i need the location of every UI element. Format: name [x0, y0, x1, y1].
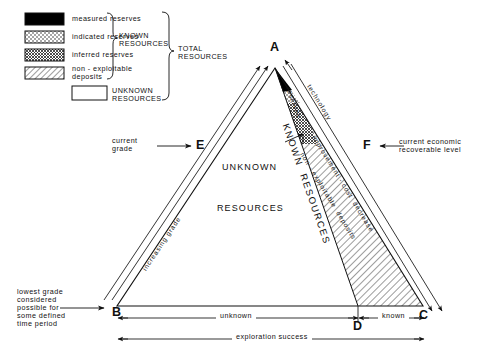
span-label-known: known: [378, 312, 409, 320]
interior-label-resources: RESOURCES: [217, 203, 284, 213]
legend-swatch-nonexploitable: [25, 67, 64, 79]
vertex-label-E: E: [196, 138, 204, 152]
legend-label-total-bracket: TOTAL RESOURCES: [178, 45, 228, 61]
legend-label-known-bracket: KNOWN RESOURCES: [119, 32, 169, 48]
legend-swatch-indicated: [25, 31, 64, 43]
annotation-current-economic-level: current economic recoverable level: [399, 138, 461, 154]
vertex-label-F: F: [363, 138, 371, 152]
span-label-exploration-success: exploration success: [232, 333, 312, 341]
bracket-total-resources: [162, 12, 174, 100]
legend-label-measured: measured reserves: [72, 15, 141, 23]
figure-canvas: measured reserves indicated reserves inf…: [0, 0, 480, 353]
vertex-label-B: B: [112, 305, 121, 319]
triangle-body: [117, 68, 423, 306]
vertex-label-C: C: [419, 308, 428, 322]
legend-swatch-unknown: [72, 86, 107, 100]
legend-label-inferred: inferred reserves: [72, 51, 134, 59]
annotation-lowest-grade: lowest grade considered possible for som…: [17, 288, 66, 328]
legend-label-unknown: UNKNOWN RESOURCES: [112, 87, 162, 103]
legend-label-nonexploitable: non - exploitable deposits: [72, 65, 132, 81]
guide-apex-arrow: [285, 60, 292, 70]
span-label-unknown: unknown: [216, 312, 256, 320]
annotation-current-grade: current grade: [112, 137, 138, 153]
legend-swatch-measured: [25, 13, 64, 25]
interior-label-unknown: UNKNOWN: [222, 162, 277, 172]
legend-swatch-inferred: [25, 49, 64, 61]
vertex-label-D: D: [353, 319, 362, 333]
vertex-label-A: A: [270, 40, 279, 54]
